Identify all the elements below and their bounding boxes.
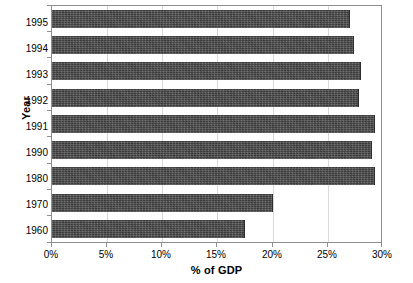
y-tick-label: 1970 [8, 199, 48, 210]
bar-1992 [52, 89, 359, 107]
x-tick-label: 10% [141, 249, 181, 261]
x-tick-mark [216, 243, 217, 247]
bar-1994 [52, 36, 354, 54]
x-axis-ticks [51, 243, 382, 248]
x-axis-title: % of GDP [51, 264, 382, 276]
x-tick-label: 30% [362, 249, 402, 261]
x-tick-label: 25% [307, 249, 347, 261]
y-tick-label: 1960 [8, 225, 48, 236]
bar-1980 [52, 167, 375, 185]
bar-1995 [52, 10, 350, 28]
bar-series [52, 6, 381, 242]
bar-chart: Year 1995 1994 1993 1992 1991 1990 1980 … [0, 0, 413, 283]
x-tick-label: 20% [252, 249, 292, 261]
y-tick-label: 1980 [8, 173, 48, 184]
x-tick-mark [381, 243, 382, 247]
x-tick-mark [106, 243, 107, 247]
bar-1990 [52, 141, 372, 159]
x-tick-mark [272, 243, 273, 247]
x-tick-label: 15% [196, 249, 236, 261]
x-axis-tick-labels: 0% 5% 10% 15% 20% 25% 30% [0, 249, 413, 263]
plot-area [51, 5, 382, 243]
x-tick-label: 5% [86, 249, 126, 261]
x-tick-mark [51, 243, 52, 247]
bar-1960 [52, 220, 245, 238]
x-tick-mark [327, 243, 328, 247]
y-tick-label: 1991 [8, 121, 48, 132]
y-tick-label: 1994 [8, 43, 48, 54]
bar-1970 [52, 194, 273, 212]
x-tick-label: 0% [31, 249, 71, 261]
bar-1991 [52, 115, 375, 133]
y-tick-label: 1990 [8, 147, 48, 158]
bar-1993 [52, 62, 361, 80]
x-tick-mark [161, 243, 162, 247]
y-tick-label: 1992 [8, 95, 48, 106]
y-axis-tick-labels: 1995 1994 1993 1992 1991 1990 1980 1970 … [8, 5, 48, 243]
y-tick-label: 1995 [8, 17, 48, 28]
y-tick-label: 1993 [8, 69, 48, 80]
